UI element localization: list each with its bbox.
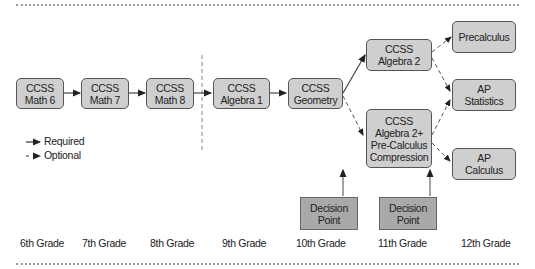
- course-math6: CCSS Math 6: [16, 78, 64, 109]
- legend-optional-label: Optional: [44, 149, 81, 161]
- course-math8: CCSS Math 8: [146, 78, 194, 109]
- course-line: Geometry: [294, 94, 338, 106]
- course-line: Statistics: [464, 95, 503, 107]
- course-line: Algebra 2+: [375, 127, 423, 139]
- course-line: Math 7: [90, 94, 120, 106]
- grade-label-12: 12th Grade: [461, 237, 511, 249]
- course-line: Math 8: [155, 94, 185, 106]
- course-line: CCSS: [156, 82, 184, 94]
- course-line: CCSS: [302, 82, 330, 94]
- decision-point-10th: Decision Point: [300, 197, 358, 230]
- course-algebra2-precalc-compression: CCSS Algebra 2+ Pre-Calculus Compression: [366, 109, 432, 168]
- decision-line: Decision: [310, 202, 348, 214]
- decision-point-11th: Decision Point: [379, 197, 437, 230]
- course-line: Algebra 1: [220, 94, 262, 106]
- course-math7: CCSS Math 7: [81, 78, 129, 109]
- course-line: CCSS: [26, 82, 54, 94]
- grade-label-11: 11th Grade: [378, 237, 427, 249]
- legend-optional: Optional: [44, 149, 81, 161]
- grade-label-7: 7th Grade: [82, 237, 126, 249]
- course-line: CCSS: [385, 115, 413, 127]
- course-line: AP: [477, 83, 490, 95]
- decision-line: Point: [318, 214, 340, 226]
- grade-label-9: 9th Grade: [222, 237, 266, 249]
- decision-line: Decision: [389, 202, 427, 214]
- course-line: Math 6: [25, 94, 55, 106]
- course-line: Precalculus: [459, 31, 510, 43]
- grade-label-10: 10th Grade: [296, 237, 346, 249]
- grade-label-6: 6th Grade: [20, 237, 64, 249]
- course-algebra1: CCSS Algebra 1: [213, 78, 270, 109]
- course-ap-statistics: AP Statistics: [452, 79, 516, 111]
- course-line: AP: [477, 152, 490, 164]
- legend-required: Required: [44, 135, 84, 147]
- course-line: CCSS: [385, 43, 413, 55]
- course-line: Compression: [370, 151, 429, 163]
- course-line: CCSS: [228, 82, 256, 94]
- course-line: Pre-Calculus: [371, 139, 428, 151]
- course-geometry: CCSS Geometry: [288, 78, 343, 109]
- course-ap-calculus: AP Calculus: [452, 148, 516, 180]
- decision-line: Point: [397, 214, 419, 226]
- legend-required-label: Required: [44, 135, 84, 147]
- course-line: Algebra 2: [378, 55, 420, 67]
- course-line: Calculus: [465, 164, 503, 176]
- course-algebra2: CCSS Algebra 2: [366, 39, 432, 71]
- course-line: CCSS: [91, 82, 119, 94]
- course-precalculus: Precalculus: [452, 21, 516, 53]
- grade-label-8: 8th Grade: [150, 237, 194, 249]
